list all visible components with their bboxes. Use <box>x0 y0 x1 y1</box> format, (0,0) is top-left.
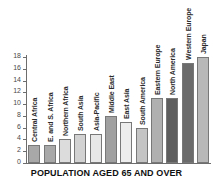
y-axis-tick-label: 8 <box>17 111 21 119</box>
y-axis-tick: 6 <box>0 128 26 129</box>
chart-title: POPULATION AGED 65 AND OVER <box>0 168 213 179</box>
bar <box>74 134 86 163</box>
y-axis-tick: 12 <box>0 92 26 93</box>
bar <box>59 139 71 163</box>
y-axis-tick: 14 <box>0 81 26 82</box>
y-axis-tick-label: 12 <box>13 87 21 95</box>
bar-category-label: Central Africa <box>31 98 38 142</box>
bar <box>136 128 148 163</box>
bar-slot: Western Europe <box>182 0 194 163</box>
bar <box>151 98 163 163</box>
bar-slot: Central Africa <box>28 0 40 163</box>
y-axis-tick-label: 2 <box>17 146 21 154</box>
y-axis-tick: 10 <box>0 104 26 105</box>
bar <box>44 145 56 163</box>
bar-slot: North America <box>166 0 178 163</box>
bar <box>90 134 102 163</box>
bar-series: Central AfricaE. and S. AfricaNorthern A… <box>27 0 211 163</box>
bar-category-label: East Asia <box>123 88 130 118</box>
bar-category-label: Eastern Europe <box>153 45 160 95</box>
bar-category-label: Japan <box>199 34 206 54</box>
bar-category-label: North America <box>169 49 176 96</box>
bar <box>197 57 209 163</box>
y-axis-tick: 0 <box>0 163 26 164</box>
bar <box>166 98 178 163</box>
bar <box>120 122 132 163</box>
y-axis-tick-label: 10 <box>13 99 21 107</box>
y-axis-tick-label: 6 <box>17 123 21 131</box>
x-axis-line <box>26 163 211 164</box>
y-axis-tick: 2 <box>0 151 26 152</box>
bar <box>105 116 117 163</box>
bar-slot: Asia-Pacific <box>90 0 102 163</box>
bar-category-label: Western Europe <box>184 8 191 60</box>
y-axis-tick: 4 <box>0 139 26 140</box>
y-axis-tick: 16 <box>0 69 26 70</box>
bar-slot: Northern Africa <box>59 0 71 163</box>
bar-slot: E. and S. Africa <box>44 0 56 163</box>
y-axis-tick-label: 0 <box>17 158 21 166</box>
y-axis-tick-label: 18 <box>13 52 21 60</box>
bar <box>28 145 40 163</box>
bar-category-label: South Asia <box>77 95 84 130</box>
bar-slot: East Asia <box>120 0 132 163</box>
bar-category-label: South America <box>138 77 145 125</box>
bar-category-label: Middle East <box>107 75 114 113</box>
bar-slot: Japan <box>197 0 209 163</box>
bar-category-label: E. and S. Africa <box>46 93 53 143</box>
bar-category-label: Asia-Pacific <box>92 92 99 131</box>
y-axis-tick: 8 <box>0 116 26 117</box>
y-axis-tick: 18 <box>0 57 26 58</box>
y-axis-tick-label: 16 <box>13 64 21 72</box>
y-axis: 024681012141618 <box>0 0 26 184</box>
bar-slot: Eastern Europe <box>151 0 163 163</box>
bar-chart: 024681012141618 Central AfricaE. and S. … <box>0 0 213 184</box>
bar-slot: Middle East <box>105 0 117 163</box>
bar-category-label: Northern Africa <box>61 87 68 137</box>
y-axis-tick-label: 14 <box>13 76 21 84</box>
y-axis-tick-label: 4 <box>17 134 21 142</box>
bar <box>182 63 194 163</box>
bar-slot: South Asia <box>74 0 86 163</box>
bar-slot: South America <box>136 0 148 163</box>
